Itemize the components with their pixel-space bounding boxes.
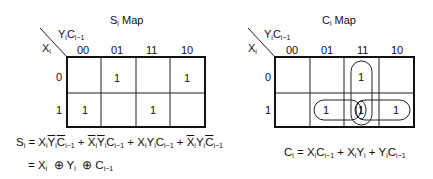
c-map-cell: 1 bbox=[358, 104, 364, 116]
s-map-cell: 1 bbox=[184, 72, 190, 84]
c-map-cell: 1 bbox=[358, 71, 364, 83]
s-equation-line2: = Xi ⊕ Yi ⊕ Ci−1 bbox=[28, 158, 113, 172]
c-map-col-header: 11 bbox=[357, 44, 368, 56]
c-equation: Ci = XiCi−1 + XiYi + YiCi−1 bbox=[284, 146, 406, 158]
s-map-col-header: 11 bbox=[146, 44, 157, 56]
s-map-column-variable: YiCi−1 bbox=[58, 28, 84, 40]
c-map-cell: 1 bbox=[323, 104, 329, 116]
c-map-col-header: 00 bbox=[286, 44, 298, 56]
s-map-row-header: 0 bbox=[56, 71, 62, 83]
c-map-col-header: 10 bbox=[391, 44, 403, 56]
c-map-cell: 1 bbox=[393, 104, 399, 116]
c-map-column-variable: YiCi−1 bbox=[264, 28, 290, 40]
c-map-row-header: 1 bbox=[265, 104, 271, 116]
s-map-cell: 1 bbox=[114, 72, 120, 84]
c-map-row-variable: Xi bbox=[248, 42, 257, 54]
s-map-cell: 1 bbox=[82, 104, 88, 116]
s-map-row-header: 1 bbox=[56, 104, 62, 116]
s-map-cell: 1 bbox=[150, 104, 156, 116]
s-equation-line1: Si = XiYiCi−1 + XiYiCi−1 + XiYiCi−1 + Xi… bbox=[16, 136, 223, 148]
s-map-col-header: 00 bbox=[77, 44, 89, 56]
c-map-title: Ci Map bbox=[322, 14, 356, 26]
s-map-title: Si Map bbox=[110, 14, 143, 26]
c-map-loop-left bbox=[314, 100, 361, 120]
s-map-col-header: 10 bbox=[181, 44, 193, 56]
c-map-row-header: 0 bbox=[265, 71, 271, 83]
s-map-row-variable: Xi bbox=[42, 42, 51, 54]
s-map-col-header: 01 bbox=[111, 44, 123, 56]
c-map-col-header: 01 bbox=[321, 44, 333, 56]
